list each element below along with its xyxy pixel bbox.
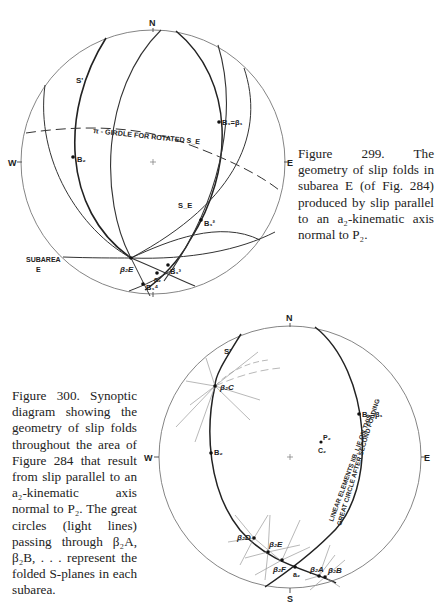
subarea-id-label: E — [36, 266, 41, 273]
b1-beta1-label: B₁=β₁ — [222, 118, 243, 127]
figure-300-caption: Figure 300. Synoptic diagram showing the… — [12, 388, 137, 599]
west-label: W — [144, 453, 153, 463]
east-label: E — [287, 158, 293, 168]
north-label: N — [286, 313, 293, 323]
beta2e-label: β₂E — [268, 540, 283, 549]
beta2d-label: β₂D — [236, 533, 251, 542]
girdle-label: π - GIRDLE FOR ROTATED S_E — [93, 126, 201, 146]
b2-label: B₂ — [214, 448, 223, 457]
s-prime-label: S' — [76, 76, 83, 85]
beta2a-label: β₂A — [309, 565, 324, 574]
se-label: S_E — [178, 201, 192, 210]
beta2e-label: β₂E — [119, 265, 134, 274]
beta2c-label: β₂C — [219, 383, 234, 392]
a2-label: a₂ — [154, 276, 161, 283]
b1-2-label: B₁² — [204, 219, 216, 228]
north-label: N — [149, 18, 156, 28]
c2-label: C₂ — [318, 447, 326, 454]
b1-3-label: B₁³ — [170, 267, 182, 276]
b2-label: B₂ — [77, 155, 86, 164]
figure-300-stereonet: N S W E — [140, 290, 440, 609]
south-label: S — [287, 594, 293, 604]
a2-label: a₂ — [293, 571, 300, 578]
s-prime-label: S' — [224, 347, 231, 356]
west-label: W — [8, 158, 17, 168]
east-label: E — [424, 453, 430, 463]
subarea-label: SUBAREA — [26, 256, 61, 263]
great-circle-note-line2: GREAT CIRCLE AFTER SECOND FOLDING — [335, 398, 380, 526]
figure-299-caption: Figure 299. The geometry of slip folds i… — [298, 146, 434, 243]
beta2f-label: β₂F — [272, 565, 287, 574]
figure-299-stereonet: N S W E S' π - GIRDLE FOR ROTATED S_E B₂… — [0, 0, 300, 300]
beta2b-label: β₂B — [327, 566, 342, 575]
p2-label: P₂ — [323, 434, 331, 441]
